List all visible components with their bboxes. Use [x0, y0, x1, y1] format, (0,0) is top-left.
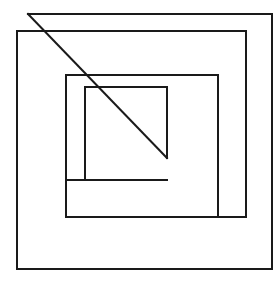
figure-background — [0, 0, 278, 282]
nested-squares-figure — [0, 0, 278, 282]
figure-canvas — [0, 0, 278, 282]
